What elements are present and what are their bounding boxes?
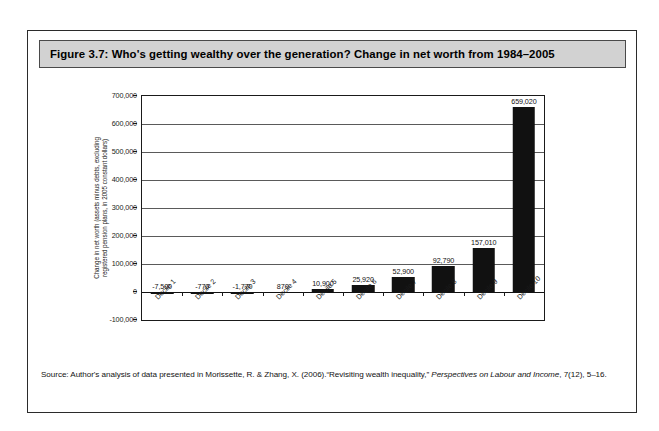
y-axis-tick-labels: -100,0000100,000200,000300,000400,000500… [85, 95, 137, 321]
y-axis-tick-mark [133, 95, 137, 96]
bar[interactable] [513, 107, 536, 292]
y-axis-tick-mark [133, 123, 137, 124]
chart-plot-area: Change in net worth (assets minus debts,… [39, 73, 626, 363]
y-axis-tick-mark [133, 291, 137, 292]
source-suffix: , 7(12), 5–16. [559, 370, 606, 379]
bar-value-label: 92,790 [433, 256, 454, 265]
y-axis-tick-mark [133, 179, 137, 180]
source-prefix: Source: Author's analysis of data presen… [41, 370, 431, 379]
figure-card: Figure 3.7: Who's getting wealthy over t… [27, 30, 637, 413]
figure-title-bar: Figure 3.7: Who's getting wealthy over t… [39, 40, 626, 68]
source-note: Source: Author's analysis of data presen… [41, 369, 621, 381]
bar-value-label: 659,020 [511, 97, 536, 106]
y-axis-tick-mark [133, 263, 137, 264]
source-journal-title: Perspectives on Labour and Income [431, 370, 559, 379]
y-axis-tick-mark [133, 319, 137, 320]
page-title: Figure 3.7: Who's getting wealthy over t… [50, 48, 555, 60]
bar-value-label: 52,900 [393, 267, 414, 276]
y-axis-tick-mark [133, 207, 137, 208]
y-axis-tick-mark [133, 151, 137, 152]
y-axis-tick-mark [133, 235, 137, 236]
bar-value-label: 157,010 [471, 238, 496, 247]
